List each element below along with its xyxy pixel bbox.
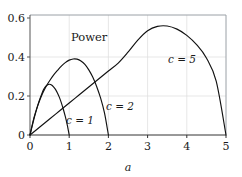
series-label-c-2: c = 2	[106, 100, 134, 112]
power-curves-figure: 0.6 0.4 0.2 0 0 1 2 3 4 5 Power c = 1 c …	[0, 0, 242, 177]
y-tick-label-0.6: 0.6	[8, 12, 26, 25]
plot-area-background	[30, 15, 226, 135]
x-tick-label-1: 1	[66, 140, 73, 153]
x-tick-label-5: 5	[223, 140, 230, 153]
series-label-c-5: c = 5	[168, 53, 196, 65]
y-tick-label-0.4: 0.4	[8, 51, 26, 64]
x-tick-label-4: 4	[183, 140, 190, 153]
series-label-c-1: c = 1	[66, 114, 94, 126]
y-tick-label-0: 0	[18, 129, 25, 142]
y-tick-labels: 0.6 0.4 0.2 0	[8, 12, 26, 142]
plot-title-power: Power	[71, 30, 108, 44]
x-axis-label: a	[125, 161, 132, 174]
x-tick-label-0: 0	[27, 140, 34, 153]
y-tick-label-0.2: 0.2	[8, 90, 26, 103]
x-tick-label-2: 2	[105, 140, 112, 153]
x-tick-labels: 0 1 2 3 4 5	[27, 140, 230, 153]
x-tick-label-3: 3	[144, 140, 151, 153]
chart-svg: 0.6 0.4 0.2 0 0 1 2 3 4 5 Power c = 1 c …	[0, 0, 242, 177]
